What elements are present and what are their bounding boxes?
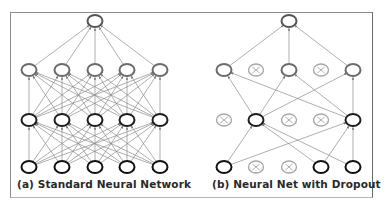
caption-standard-network: (a) Standard Neural Network (17, 178, 191, 190)
connection-edge (35, 75, 90, 117)
neuron-hidden2 (346, 64, 361, 76)
neuron-hidden2 (22, 64, 37, 76)
neuron-hidden2 (120, 64, 135, 76)
connection-edge (228, 126, 252, 161)
nodes-standard (22, 15, 168, 173)
neuron-input (55, 161, 70, 173)
neuron-input (22, 161, 37, 173)
connection-edge (295, 26, 348, 66)
dropped-neuron-icon (314, 64, 329, 76)
dropout-network-panel (217, 15, 361, 173)
connection-edge (131, 126, 156, 162)
neuron-input (217, 161, 232, 173)
connection-edge (33, 76, 58, 114)
neuron-hidden2 (153, 64, 168, 76)
connection-edge (34, 25, 89, 66)
connection-edge (34, 75, 89, 117)
connection-edge (325, 126, 349, 161)
connection-edge (67, 75, 121, 116)
nodes-dropout (217, 15, 361, 173)
connection-edge (35, 124, 90, 163)
connection-edge (69, 123, 154, 164)
dropped-neuron-icon (249, 64, 264, 76)
dropped-neuron-icon (282, 161, 297, 173)
connection-edge (229, 26, 283, 67)
connection-edge (67, 124, 121, 163)
neuron-input (153, 161, 168, 173)
connection-edge (101, 75, 155, 116)
neuron-hidden1 (346, 114, 361, 126)
dropped-neuron-icon (314, 114, 329, 126)
neuron-output (88, 15, 103, 27)
neuron-hidden2 (55, 64, 70, 76)
connection-edge (101, 124, 155, 163)
caption-dropout-network: (b) Neural Net with Dropout (212, 178, 381, 190)
neuron-input (314, 161, 329, 173)
connection-edge (131, 76, 156, 114)
neuron-input (88, 161, 103, 173)
standard-network-panel (22, 15, 168, 173)
connection-edge (231, 73, 347, 118)
connection-edge (131, 76, 156, 114)
connection-edge (263, 123, 347, 164)
connection-edge (101, 26, 155, 67)
neuron-hidden2 (282, 64, 297, 76)
connection-edge (228, 76, 252, 114)
neuron-input (120, 161, 135, 173)
neuron-hidden1 (153, 114, 168, 126)
connection-edge (260, 76, 285, 114)
dropped-neuron-icon (249, 161, 264, 173)
neuron-input (346, 161, 361, 173)
edges-dropout (228, 26, 353, 165)
connection-edge (66, 27, 91, 64)
connection-edge (69, 73, 155, 117)
neuron-hidden2 (217, 64, 232, 76)
dropped-neuron-icon (282, 114, 297, 126)
neuron-output (282, 15, 297, 27)
connection-edge (262, 73, 347, 117)
dropped-neuron-icon (217, 114, 232, 126)
neuron-hidden1 (249, 114, 264, 126)
neuron-hidden1 (22, 114, 37, 126)
neuron-hidden2 (88, 64, 103, 76)
connection-edge (230, 123, 346, 165)
connection-edge (34, 124, 89, 163)
connection-edge (295, 75, 348, 116)
neuron-hidden1 (88, 114, 103, 126)
neuron-hidden1 (120, 114, 135, 126)
edges-standard (29, 25, 160, 164)
connection-edge (33, 126, 58, 162)
neuron-hidden1 (55, 114, 70, 126)
connection-edge (262, 124, 316, 163)
